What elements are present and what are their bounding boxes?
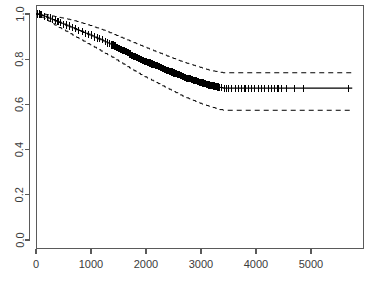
y-tick-label-1.0: 1.0 bbox=[14, 6, 26, 21]
x-axis-ticks bbox=[36, 249, 311, 254]
censoring-marks-group bbox=[38, 10, 349, 91]
y-axis-tick-labels: 0.00.20.40.60.81.0 bbox=[14, 6, 26, 247]
data-group bbox=[36, 10, 352, 110]
y-tick-label-0.4: 0.4 bbox=[14, 142, 26, 157]
x-axis-tick-labels: 010002000300040005000 bbox=[33, 258, 323, 270]
x-tick-label-3000: 3000 bbox=[189, 258, 213, 270]
y-tick-label-0.2: 0.2 bbox=[14, 187, 26, 202]
kaplan-meier-plot: 010002000300040005000 0.00.20.40.60.81.0 bbox=[0, 0, 373, 281]
x-tick-label-0: 0 bbox=[33, 258, 39, 270]
axis-group: 010002000300040005000 0.00.20.40.60.81.0 bbox=[14, 6, 363, 269]
lower-confidence-band-path bbox=[36, 14, 352, 110]
plot-canvas: 010002000300040005000 0.00.20.40.60.81.0 bbox=[0, 0, 373, 281]
x-tick-label-1000: 1000 bbox=[79, 258, 103, 270]
y-tick-label-0.0: 0.0 bbox=[14, 232, 26, 247]
x-tick-label-4000: 4000 bbox=[244, 258, 268, 270]
y-tick-label-0.6: 0.6 bbox=[14, 97, 26, 112]
y-tick-label-0.8: 0.8 bbox=[14, 52, 26, 67]
plot-box-border bbox=[37, 6, 364, 249]
x-tick-label-2000: 2000 bbox=[134, 258, 158, 270]
upper-confidence-band-path bbox=[36, 14, 352, 73]
y-axis-ticks bbox=[25, 14, 30, 240]
x-tick-label-5000: 5000 bbox=[299, 258, 323, 270]
plot-frame-group bbox=[37, 6, 364, 249]
